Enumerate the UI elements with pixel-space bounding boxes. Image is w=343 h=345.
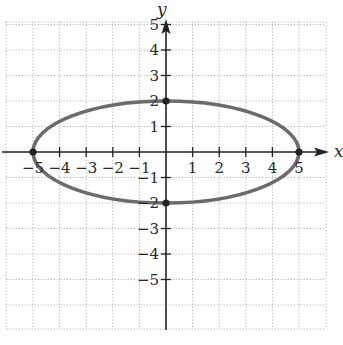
y-tick-label: 2 <box>149 92 159 110</box>
x-tick-label: −2 <box>102 159 124 177</box>
y-tick-label: 3 <box>149 67 159 85</box>
x-tick-label: −4 <box>49 159 71 177</box>
y-tick-label: −2 <box>137 194 159 212</box>
x-tick-label: 4 <box>268 159 278 177</box>
y-tick-label: 1 <box>149 118 159 136</box>
y-tick-label: 4 <box>149 41 159 59</box>
x-axis-label: x <box>334 141 343 161</box>
x-tick-label: −5 <box>22 159 44 177</box>
x-tick-label: 3 <box>241 159 251 177</box>
vertex-point <box>162 199 169 206</box>
x-tick-label: 2 <box>214 159 224 177</box>
ellipse-graph: −5−4−3−2−112345−5−4−3−2−112345 x y <box>0 0 343 345</box>
y-tick-label: −1 <box>137 169 159 187</box>
y-tick-label: −5 <box>137 271 159 289</box>
y-tick-label: −3 <box>137 220 159 238</box>
x-tick-label: 5 <box>294 159 304 177</box>
y-axis-label: y <box>156 0 167 19</box>
x-tick-label: −3 <box>75 159 97 177</box>
vertex-point <box>29 148 36 155</box>
vertex-point <box>162 97 169 104</box>
vertex-point <box>295 148 302 155</box>
x-tick-label: 1 <box>188 159 198 177</box>
y-tick-label: −4 <box>137 245 159 263</box>
